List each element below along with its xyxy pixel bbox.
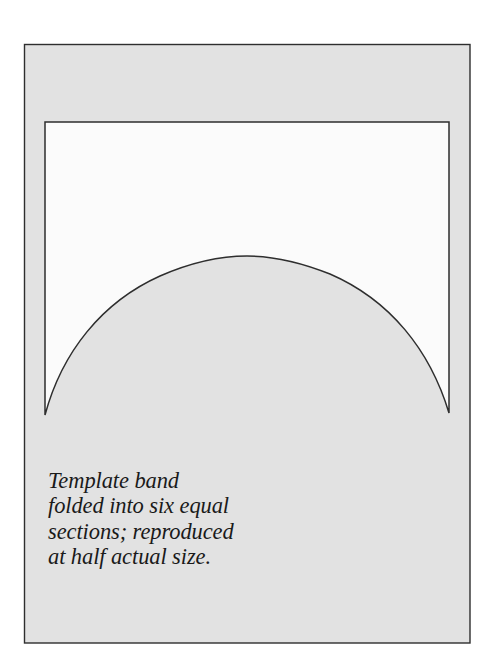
template-figure: Template band folded into six equal sect… xyxy=(0,0,493,667)
caption-line-1: Template band xyxy=(48,468,308,493)
caption-line-4: at half actual size. xyxy=(48,544,308,569)
figure-caption: Template band folded into six equal sect… xyxy=(48,468,308,569)
caption-line-3: sections; reproduced xyxy=(48,519,308,544)
caption-line-2: folded into six equal xyxy=(48,493,308,518)
